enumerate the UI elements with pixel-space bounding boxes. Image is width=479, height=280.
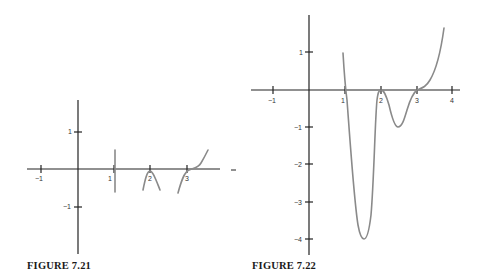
figure-7-22-caption: FIGURE 7.22 — [252, 260, 316, 271]
y-tick-label: 1 — [68, 128, 72, 135]
y-tick-label: −1 — [63, 203, 71, 210]
x-tick-label: −1 — [268, 97, 276, 104]
x-tick-label: 2 — [148, 175, 152, 182]
x-tick-label: −1 — [35, 175, 43, 182]
figure-7-21-curves — [115, 150, 208, 193]
y-tick-label: −4 — [294, 236, 302, 243]
figure-7-22-axes — [231, 15, 460, 255]
x-tick-label: 1 — [108, 175, 112, 182]
y-tick-label: −1 — [294, 124, 302, 131]
figure-7-21-axes — [27, 100, 220, 254]
x-tick-label: 1 — [341, 97, 345, 104]
curve-segment — [178, 150, 208, 193]
x-tick-label: 3 — [415, 97, 419, 104]
x-tick-label: 2 — [379, 97, 383, 104]
figure-7-22-tick-labels: −1 1 2 3 4 1 −1 −2 −3 −4 — [268, 49, 454, 243]
figure-7-21-caption: FIGURE 7.21 — [27, 260, 91, 271]
y-tick-label: −2 — [294, 161, 302, 168]
y-tick-label: −3 — [294, 199, 302, 206]
function-curve — [343, 28, 444, 239]
x-tick-label: 4 — [450, 97, 454, 104]
figure-7-22-curve — [343, 28, 444, 239]
figure-7-21-plot: −1 1 2 3 1 −1 −1 1 2 3 4 1 −1 −2 −3 −4 — [0, 0, 479, 280]
y-tick-label: 1 — [299, 49, 303, 56]
x-tick-label: 3 — [185, 175, 189, 182]
